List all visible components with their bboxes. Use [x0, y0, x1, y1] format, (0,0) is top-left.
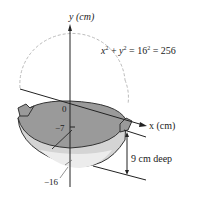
depth-bottom-line	[93, 166, 146, 180]
x-axis-arrow-icon	[139, 122, 147, 127]
tick-label-neg7: −7	[55, 123, 65, 133]
leader-neg16	[60, 167, 68, 178]
depth-label: 9 cm deep	[131, 153, 172, 164]
x-axis-label: x (cm)	[149, 120, 175, 132]
y-axis-arrow-icon	[68, 24, 72, 31]
tick-label-0: 0	[62, 104, 67, 114]
wok-diagram: y (cm) x (cm) x2 + y2 = 162 = 256 0 −7 −…	[0, 0, 198, 197]
dashed-circle-right	[125, 80, 128, 104]
y-axis-label: y (cm)	[68, 11, 95, 23]
equation: x2 + y2 = 162 = 256	[100, 45, 176, 56]
tick-label-neg16: −16	[44, 177, 59, 187]
dashed-circle	[20, 33, 125, 88]
